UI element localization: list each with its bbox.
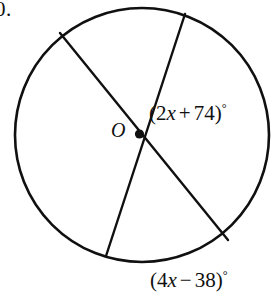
angle-top-coefficient: 2 (156, 101, 167, 125)
angle-bottom-operator: − (177, 268, 195, 292)
angle-top-variable: x (167, 101, 176, 125)
degree-symbol-icon: ° (223, 268, 228, 282)
angle-bottom-coefficient: 4 (157, 268, 168, 292)
angle-bottom-close-paren: ) (216, 268, 223, 292)
angle-bottom-variable: x (168, 268, 177, 292)
angle-bottom-open-paren: ( (150, 268, 157, 292)
center-label-o: O (111, 120, 125, 140)
angle-label-bottom: (4x−38)° (150, 270, 227, 291)
angle-top-close-paren: ) (215, 101, 222, 125)
center-point-dot (135, 129, 144, 138)
angle-top-open-paren: ( (149, 101, 156, 125)
problem-number: 0. (0, 0, 12, 22)
circle-diagram (0, 0, 279, 301)
figure-canvas: 0. O (2x+74)° (4x−38)° (0, 0, 279, 301)
angle-bottom-constant: 38 (195, 268, 216, 292)
angle-top-operator: + (176, 101, 194, 125)
degree-symbol-icon: ° (222, 101, 227, 115)
angle-label-top: (2x+74)° (149, 103, 226, 124)
angle-top-constant: 74 (194, 101, 215, 125)
